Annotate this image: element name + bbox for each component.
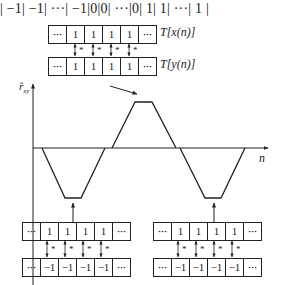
svg-text:*: * <box>200 244 205 254</box>
bottom-left-multiply-arrows: * * * * <box>47 241 110 257</box>
correlation-waveform <box>180 148 245 198</box>
svg-text:*: * <box>182 244 187 254</box>
svg-text:*: * <box>133 45 138 55</box>
svg-text:*: * <box>105 244 110 254</box>
svg-text:*: * <box>218 244 223 254</box>
bottom-right-multiply-arrows: * * * * <box>178 241 241 257</box>
peak-pointer-arrow <box>110 86 137 94</box>
correlation-waveform <box>42 148 105 198</box>
svg-text:*: * <box>87 244 92 254</box>
svg-text:*: * <box>79 45 84 55</box>
diagram-graphics: * * * * * * * * * * * * <box>0 0 284 285</box>
top-multiply-arrows: * * * * <box>75 44 138 56</box>
svg-text:*: * <box>115 45 120 55</box>
svg-text:*: * <box>97 45 102 55</box>
svg-text:*: * <box>236 244 241 254</box>
svg-text:*: * <box>69 244 74 254</box>
svg-text:*: * <box>51 244 56 254</box>
correlation-waveform <box>112 102 176 148</box>
